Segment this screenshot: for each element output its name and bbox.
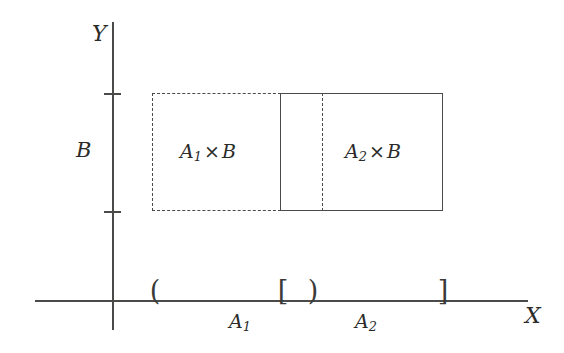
- y-axis-line: [112, 22, 114, 330]
- region-label-a1-subscript: 1: [194, 149, 202, 164]
- x-interval-a2-base: A: [355, 310, 369, 332]
- region-label-b-factor-2: B: [387, 140, 401, 162]
- region-label-a2-times-b: A2×B: [345, 142, 401, 164]
- x-interval-label-a2: A2: [355, 312, 377, 334]
- times-operator-2: ×: [367, 140, 387, 162]
- cartesian-product-figure: Y X B A1×B A2×B ( [ ) ] A1 A2: [0, 0, 564, 353]
- y-axis-tick-b-lower: [104, 211, 121, 213]
- x-interval-a1-base: A: [229, 310, 243, 332]
- region-label-a2-subscript: 2: [359, 149, 367, 164]
- times-operator-1: ×: [202, 140, 222, 162]
- region-label-a1-times-b: A1×B: [180, 142, 236, 164]
- x-interval-a2-subscript: 2: [369, 319, 377, 334]
- x-axis-label: X: [525, 305, 541, 327]
- y-interval-label-b: B: [76, 140, 91, 161]
- interior-dashed-divider: [322, 93, 323, 211]
- region-label-a1-base: A: [180, 140, 194, 162]
- region-label-a2-base: A: [345, 140, 359, 162]
- region-label-b-factor-1: B: [222, 140, 236, 162]
- y-axis-label: Y: [92, 23, 107, 45]
- x-interval-a1-subscript: 1: [243, 319, 251, 334]
- y-axis-tick-b-upper: [104, 93, 121, 95]
- x-interval-label-a1: A1: [229, 312, 251, 334]
